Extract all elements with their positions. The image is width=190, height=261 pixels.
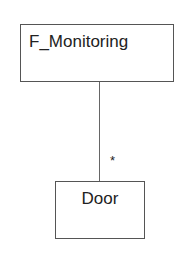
association-line — [99, 82, 100, 181]
class-box-f-monitoring: F_Monitoring — [20, 24, 174, 82]
class-box-door: Door — [55, 181, 145, 239]
class-name: Door — [56, 189, 144, 209]
multiplicity-label: * — [110, 153, 115, 168]
class-name: F_Monitoring — [29, 32, 128, 52]
